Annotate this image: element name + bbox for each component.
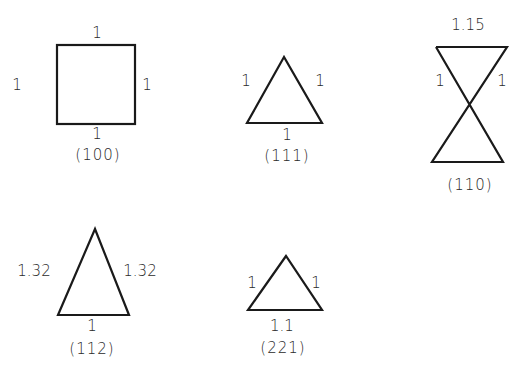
plane-caption: (221)	[260, 339, 305, 357]
edge-label-top: 1.15	[451, 16, 484, 34]
edge-label-left: 1	[241, 72, 251, 90]
edge-label-bottom: 1	[282, 126, 292, 144]
panel-112: 1.32 1.32 1 (112)	[17, 229, 156, 358]
triangle-shape	[247, 57, 322, 123]
edge-label-right: 1	[315, 72, 325, 90]
edge-label-bottom: 1	[87, 317, 97, 335]
edge-label-left: 1.32	[17, 262, 50, 280]
edge-label-bottom: 1	[92, 125, 102, 143]
panel-111: 1 1 1 (111)	[241, 57, 325, 165]
edge-label-right: 1	[142, 76, 152, 94]
edge-label-left: 1	[435, 72, 445, 90]
triangle-shape	[58, 229, 129, 315]
plane-caption: (111)	[264, 147, 309, 165]
plane-caption: (110)	[447, 176, 492, 194]
edge-label-right: 1.32	[123, 262, 156, 280]
edge-label-top: 1	[92, 24, 102, 42]
square-shape	[57, 45, 135, 124]
panel-100: 1 1 1 1 (100)	[12, 24, 152, 164]
edge-label-bottom: 1.1	[270, 317, 294, 335]
edge-label-right: 1	[497, 72, 507, 90]
panel-110: 1.15 1 1 (110)	[432, 16, 507, 194]
diagram-canvas: 1 1 1 1 (100) 1 1 1 (111) 1.15 1 1 (110)…	[0, 0, 516, 368]
plane-caption: (100)	[75, 146, 120, 164]
edge-label-right: 1	[311, 274, 321, 292]
panel-221: 1 1 1.1 (221)	[247, 256, 322, 357]
hourglass-shape	[432, 47, 507, 162]
edge-label-left: 1	[12, 76, 22, 94]
edge-label-left: 1	[247, 274, 257, 292]
plane-caption: (112)	[69, 340, 114, 358]
